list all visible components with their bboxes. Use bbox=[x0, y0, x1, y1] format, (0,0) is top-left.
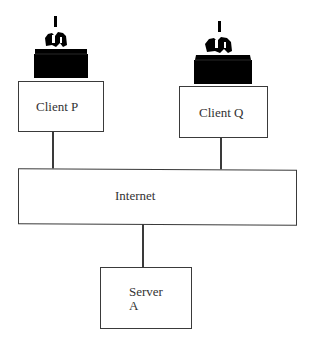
client-q-label: Client Q bbox=[199, 105, 243, 120]
connector-internet-server-a bbox=[142, 224, 144, 268]
computer-user-icon bbox=[190, 20, 256, 84]
internet-node bbox=[18, 168, 297, 225]
client-p-label: Client P bbox=[36, 99, 78, 114]
server-a-label-line2: A bbox=[129, 298, 138, 313]
connector-client-p-internet bbox=[52, 131, 54, 170]
server-a-label-line1: Server bbox=[129, 284, 163, 299]
computer-user-icon bbox=[30, 14, 92, 78]
internet-label: Internet bbox=[115, 188, 155, 203]
connector-client-q-internet bbox=[220, 137, 222, 173]
